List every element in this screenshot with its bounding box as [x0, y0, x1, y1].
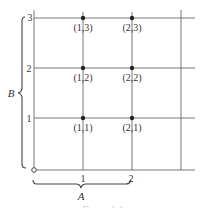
point-label: (1,2)	[73, 72, 92, 84]
point-label: (2,1)	[122, 122, 141, 134]
origin-icon	[32, 168, 37, 173]
point	[130, 16, 134, 20]
point	[81, 116, 85, 120]
brace-b-icon	[18, 17, 26, 168]
figure-caption: Figure 1.1	[82, 204, 123, 208]
grid-lines	[34, 10, 195, 170]
point	[130, 66, 134, 70]
y-tick-label: 1	[27, 113, 32, 124]
x-tick-label: 1	[81, 173, 86, 184]
point-label: (1,1)	[73, 122, 92, 134]
point-label: (2,3)	[122, 22, 141, 34]
brace-a-label: A	[77, 190, 85, 202]
point-label: (2,2)	[122, 72, 141, 84]
y-tick-label: 3	[28, 12, 33, 23]
point	[130, 116, 134, 120]
y-tick-label: 2	[27, 63, 32, 74]
grid-svg: (1,3) (2,3) (1,2) (2,2) (1,1) (2,1) 3 2 …	[0, 0, 205, 208]
point	[81, 66, 85, 70]
point	[81, 16, 85, 20]
point-label: (1,3)	[73, 22, 92, 34]
cartesian-product-diagram: (1,3) (2,3) (1,2) (2,2) (1,1) (2,1) 3 2 …	[0, 0, 205, 208]
brace-b-label: B	[8, 87, 15, 99]
